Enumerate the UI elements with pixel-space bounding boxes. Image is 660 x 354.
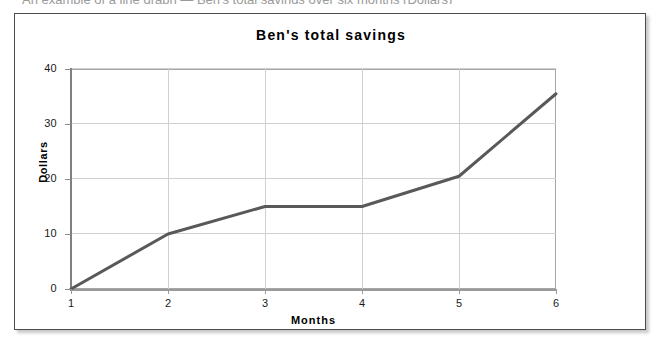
x-axis-tick-mark (71, 289, 72, 294)
y-axis-tick-label: 10 (23, 227, 57, 239)
x-axis-tick-mark (459, 289, 460, 294)
y-axis-tick-label: 20 (23, 172, 57, 184)
x-axis-tick-mark (265, 289, 266, 294)
series-line-bens-total-savings (71, 94, 556, 289)
chart-figure-frame: Ben's total savings Dollars Months 01020… (14, 13, 646, 330)
y-axis-tick-mark (65, 69, 71, 70)
x-axis-tick-label: 2 (153, 297, 183, 309)
x-axis-tick-mark (168, 289, 169, 294)
y-axis-tick-label: 30 (23, 117, 57, 129)
x-axis-tick-label: 5 (444, 297, 474, 309)
x-axis-tick-mark (362, 289, 363, 294)
x-axis-tick-label: 4 (347, 297, 377, 309)
series-layer (15, 14, 647, 331)
y-axis-tick-mark (65, 124, 71, 125)
y-axis-tick-mark (65, 234, 71, 235)
y-axis-tick-label: 40 (23, 62, 57, 74)
x-axis-tick-mark (556, 289, 557, 294)
y-axis-tick-mark (65, 179, 71, 180)
host-document-top-text: An example of a line graph — Ben's total… (22, 0, 622, 4)
x-axis-tick-label: 3 (250, 297, 280, 309)
y-axis-tick-label: 0 (23, 282, 57, 294)
x-axis-tick-label: 6 (541, 297, 571, 309)
x-axis-tick-label: 1 (56, 297, 86, 309)
